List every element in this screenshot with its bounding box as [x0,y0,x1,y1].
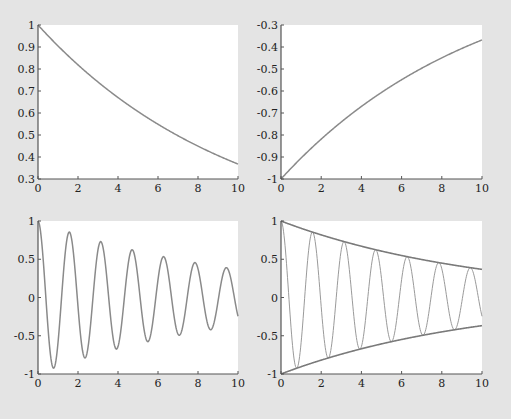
y-tick-label: -1 [267,368,278,381]
y-tick-label: -0.5 [257,63,278,76]
subplot-exp-decay: 02468100.30.40.50.60.70.80.91 [18,19,246,195]
plot-area [38,221,238,374]
x-tick-label: 2 [75,182,82,195]
x-tick-label: 0 [278,377,285,390]
y-tick-label: -0.4 [257,41,278,54]
y-tick-label: -0.9 [257,151,278,164]
y-tick-label: -0.5 [257,330,278,343]
y-tick-label: 1 [271,215,278,228]
y-tick-label: 0 [28,292,35,305]
x-tick-label: 8 [438,182,445,195]
y-tick-label: 0.6 [18,107,36,120]
y-tick-label: 0.8 [18,63,36,76]
y-tick-label: 0 [271,292,278,305]
plot-area [281,221,482,374]
y-tick-label: -0.5 [14,330,35,343]
x-tick-label: 8 [438,377,445,390]
subplot-damped-cosine-envelope: 0246810-1-0.500.51 [257,215,489,390]
subplot-damped-cosine: 0246810-1-0.500.51 [14,215,245,390]
x-tick-label: 0 [35,377,42,390]
y-tick-label: 0.5 [261,253,279,266]
plot-area [281,25,482,179]
x-tick-label: 4 [358,182,365,195]
figure-canvas: 02468100.30.40.50.60.70.80.91 0246810-1-… [0,0,511,419]
x-tick-label: 4 [115,182,122,195]
x-tick-label: 8 [195,182,202,195]
x-tick-label: 6 [398,377,405,390]
x-tick-label: 0 [278,182,285,195]
x-tick-label: 0 [35,182,42,195]
y-tick-label: 0.9 [18,41,36,54]
plot-area [38,25,238,179]
y-tick-label: -1 [267,173,278,186]
x-tick-label: 10 [231,182,245,195]
x-tick-label: 2 [318,182,325,195]
y-tick-label: -0.7 [257,107,278,120]
y-tick-label: -1 [24,368,35,381]
y-tick-label: 0.4 [18,151,36,164]
y-tick-label: 0.5 [18,253,36,266]
x-tick-label: 10 [231,377,245,390]
x-tick-label: 6 [155,377,162,390]
y-tick-label: -0.8 [257,129,278,142]
y-tick-label: 0.5 [18,129,36,142]
subplot-negative-exp: 0246810-1-0.9-0.8-0.7-0.6-0.5-0.4-0.3 [257,19,489,195]
x-tick-label: 4 [358,377,365,390]
y-tick-label: 0.7 [18,85,36,98]
y-tick-label: 1 [28,19,35,32]
x-tick-label: 10 [475,377,489,390]
x-tick-label: 2 [75,377,82,390]
x-tick-label: 6 [155,182,162,195]
x-tick-label: 2 [318,377,325,390]
y-tick-label: -0.3 [257,19,278,32]
x-tick-label: 8 [195,377,202,390]
y-tick-label: 0.3 [18,173,36,186]
x-tick-label: 6 [398,182,405,195]
y-tick-label: 1 [28,215,35,228]
y-tick-label: -0.6 [257,85,278,98]
x-tick-label: 4 [115,377,122,390]
x-tick-label: 10 [475,182,489,195]
